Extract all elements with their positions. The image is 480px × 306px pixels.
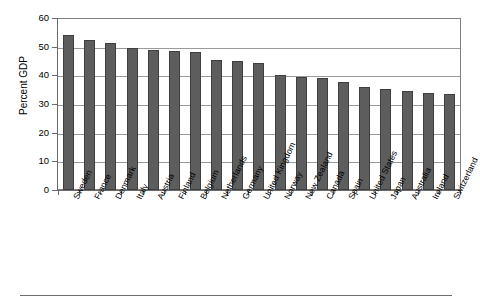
y-axis-tick-label: 0 bbox=[0, 185, 49, 195]
bar[interactable] bbox=[105, 43, 116, 190]
bar-slot bbox=[79, 19, 100, 190]
y-axis-tick-label: 10 bbox=[0, 156, 49, 166]
y-axis-tick-label: 60 bbox=[0, 13, 49, 23]
bar-slot bbox=[439, 19, 460, 190]
bar-slot bbox=[291, 19, 312, 190]
bar-slot bbox=[100, 19, 121, 190]
bar[interactable] bbox=[63, 35, 74, 190]
bar[interactable] bbox=[190, 52, 201, 190]
bar[interactable] bbox=[169, 51, 180, 190]
bar-slot bbox=[164, 19, 185, 190]
bar-slot bbox=[354, 19, 375, 190]
x-axis-tick bbox=[58, 191, 59, 195]
bar-slot bbox=[397, 19, 418, 190]
y-axis-tick-label: 20 bbox=[0, 128, 49, 138]
bars-layer bbox=[58, 19, 460, 190]
bar[interactable] bbox=[148, 50, 159, 191]
bar-slot bbox=[121, 19, 142, 190]
footer-divider bbox=[20, 295, 452, 296]
y-axis-tick-label: 30 bbox=[0, 99, 49, 109]
bar-slot bbox=[143, 19, 164, 190]
bar-slot bbox=[206, 19, 227, 190]
y-axis-tick-label: 50 bbox=[0, 42, 49, 52]
bar-slot bbox=[418, 19, 439, 190]
bar-slot bbox=[58, 19, 79, 190]
bar-slot bbox=[333, 19, 354, 190]
bar-slot bbox=[185, 19, 206, 190]
y-axis-tick-label: 40 bbox=[0, 70, 49, 80]
bar[interactable] bbox=[402, 91, 413, 190]
bar[interactable] bbox=[359, 87, 370, 190]
bar-slot bbox=[248, 19, 269, 190]
